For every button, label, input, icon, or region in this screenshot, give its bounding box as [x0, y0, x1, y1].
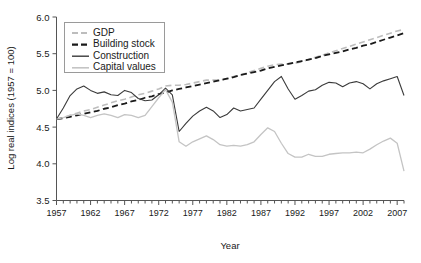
y-tick-label: 4.5: [36, 122, 49, 133]
y-axis-ticks: 6.05.55.04.54.03.5: [36, 12, 56, 207]
x-tick-label: 1982: [217, 208, 237, 218]
chart-figure: 6.05.55.04.54.03.5 195719621967197219771…: [0, 0, 421, 263]
series-line-capital-values: [57, 90, 405, 171]
x-tick-label: 1992: [285, 208, 305, 218]
legend-label-capital-values: Capital values: [93, 61, 156, 72]
x-axis-ticks: 1957196219671972197719821987199219972002…: [46, 201, 407, 218]
x-tick-label: 2007: [387, 208, 407, 218]
x-tick-label: 1972: [149, 208, 169, 218]
y-tick-label: 4.0: [36, 158, 49, 169]
line-chart: 6.05.55.04.54.03.5 195719621967197219771…: [0, 0, 421, 263]
x-tick-label: 1977: [183, 208, 203, 218]
x-tick-label: 1962: [81, 208, 101, 218]
legend-label-gdp: GDP: [93, 27, 115, 38]
series-line-construction: [57, 76, 405, 131]
y-axis-title: Log real indices (1957 = 100): [5, 46, 16, 169]
x-tick-label: 1987: [251, 208, 271, 218]
x-tick-label: 2002: [353, 208, 373, 218]
y-tick-label: 5.5: [36, 48, 49, 59]
chart-legend: GDPBuilding stockConstructionCapital val…: [65, 23, 165, 73]
legend-label-construction: Construction: [93, 50, 149, 61]
x-tick-label: 1957: [46, 208, 66, 218]
x-axis-title: Year: [220, 240, 239, 251]
legend-label-building-stock: Building stock: [93, 38, 156, 49]
y-tick-label: 3.5: [36, 195, 49, 206]
y-tick-label: 5.0: [36, 85, 49, 96]
y-tick-label: 6.0: [36, 12, 49, 23]
x-tick-label: 1967: [115, 208, 135, 218]
x-tick-label: 1997: [319, 208, 339, 218]
